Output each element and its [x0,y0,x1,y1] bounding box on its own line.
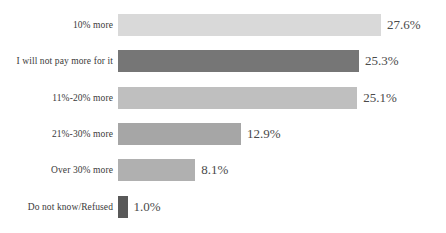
category-label: Do not know/Refused [0,202,118,213]
chart-row: 21%-30% more 12.9% [0,123,446,145]
chart-row: 11%-20% more 25.1% [0,87,446,109]
bar-area: 8.1% [118,159,446,181]
value-label: 12.9% [241,127,281,141]
bar [118,87,357,109]
category-label: I will not pay more for it [0,56,118,67]
chart-row: Do not know/Refused 1.0% [0,196,446,218]
bar [118,14,381,36]
category-label: 10% more [0,20,118,31]
category-label: 21%-30% more [0,129,118,140]
category-label: 11%-20% more [0,93,118,104]
value-label: 27.6% [381,18,421,32]
value-label: 1.0% [128,200,161,214]
bar-area: 12.9% [118,123,446,145]
bar-area: 25.1% [118,87,446,109]
value-label: 25.1% [357,91,397,105]
category-label: Over 30% more [0,165,118,176]
bar [118,159,195,181]
bar [118,50,359,72]
chart-row: Over 30% more 8.1% [0,159,446,181]
chart-row: 10% more 27.6% [0,14,446,36]
bar-area: 1.0% [118,196,446,218]
bar [118,196,128,218]
bar-area: 27.6% [118,14,446,36]
value-label: 25.3% [359,54,399,68]
bar-area: 25.3% [118,50,446,72]
chart-row: I will not pay more for it 25.3% [0,50,446,72]
bar-chart: 10% more 27.6% I will not pay more for i… [0,0,446,233]
bar [118,123,241,145]
value-label: 8.1% [195,163,228,177]
